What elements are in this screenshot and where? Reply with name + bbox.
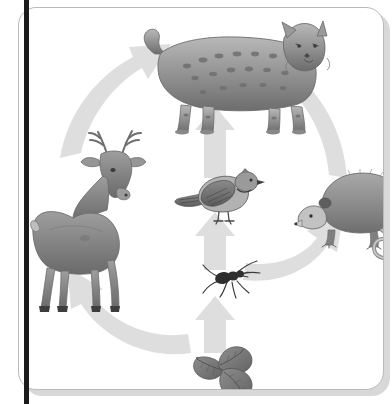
organism-insect: [203, 261, 260, 298]
organism-opossum: [294, 169, 384, 258]
organisms-layer: [19, 8, 384, 390]
organism-bird: [175, 168, 265, 224]
diagram-stage: [0, 0, 392, 404]
organism-deer: [31, 131, 146, 312]
organism-plant: [194, 347, 252, 390]
left-spine-bar: [24, 0, 29, 404]
food-web-canvas: [19, 8, 383, 389]
food-web-card: [18, 7, 384, 390]
organism-bobcat: [144, 21, 329, 135]
